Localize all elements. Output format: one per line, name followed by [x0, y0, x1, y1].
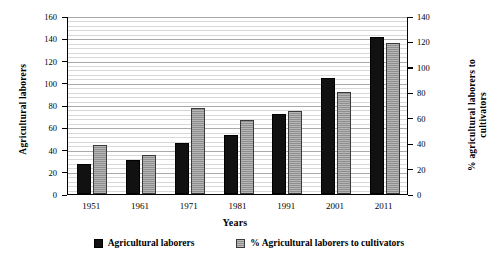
y-axis-right-tick-label: 0	[417, 190, 445, 200]
x-axis-tick-label: 2011	[359, 201, 409, 211]
bar-2001-series0	[321, 78, 335, 194]
y-axis-left-tick-label: 140	[29, 34, 57, 44]
gridline	[68, 97, 407, 98]
gridline	[68, 48, 407, 49]
gridline	[68, 115, 407, 116]
x-axis-tick-label: 1981	[213, 201, 263, 211]
gridline	[68, 110, 407, 111]
gridline	[68, 177, 407, 178]
bar-1991-series0	[272, 114, 286, 194]
gridline	[68, 119, 407, 120]
plot-area	[67, 17, 408, 195]
bar-2011-series1	[386, 43, 400, 194]
y-axis-left-tick	[62, 172, 67, 173]
gridline	[68, 133, 407, 134]
y-axis-right-tick-label: 20	[417, 165, 445, 175]
bar-1951-series1	[93, 145, 107, 194]
legend-item-label: % Agricultural laborers to cultivators	[250, 238, 404, 248]
gridline	[68, 155, 407, 156]
gridline	[68, 93, 407, 94]
y-axis-left-tick-label: 20	[29, 168, 57, 178]
gridline	[68, 151, 407, 152]
y-axis-left-tick	[62, 39, 67, 40]
gridline	[68, 84, 407, 85]
gridline	[68, 17, 407, 18]
gridline	[68, 142, 407, 143]
y-axis-left-tick	[62, 150, 67, 151]
gridline	[68, 79, 407, 80]
y-axis-left-tick-label: 160	[29, 12, 57, 22]
bar-1991-series1	[288, 111, 302, 194]
gridline	[68, 146, 407, 147]
legend-item-label: Agricultural laborers	[108, 238, 195, 248]
bar-chart: Agricultural laborers % agricultural lab…	[0, 0, 498, 270]
gridline	[68, 75, 407, 76]
bar-1981-series1	[240, 120, 254, 194]
y-axis-right-tick	[408, 144, 413, 145]
y-axis-right-tick	[408, 195, 413, 196]
y-axis-left-tick-label: 120	[29, 57, 57, 67]
y-axis-right-tick-label: 40	[417, 139, 445, 149]
y-axis-left-title: Agricultural laborers	[18, 34, 28, 184]
x-axis-tick-label: 2001	[310, 201, 360, 211]
gridline	[68, 21, 407, 22]
y-axis-left-tick	[62, 106, 67, 107]
gridline	[68, 124, 407, 125]
gridline	[68, 159, 407, 160]
y-axis-right-tick	[408, 42, 413, 43]
x-axis-tick-label: 1971	[164, 201, 214, 211]
y-axis-right-tick-label: 140	[417, 12, 445, 22]
y-axis-right-tick	[408, 93, 413, 94]
gridline	[68, 168, 407, 169]
gray-square-icon	[236, 239, 245, 248]
gridline	[68, 191, 407, 192]
bar-1981-series0	[224, 135, 238, 194]
x-axis-tick-label: 1951	[66, 201, 116, 211]
gridline	[68, 137, 407, 138]
y-axis-right-tick-label: 120	[417, 37, 445, 47]
gridline	[68, 66, 407, 67]
y-axis-left-tick	[62, 61, 67, 62]
x-axis-tick-label: 1961	[115, 201, 165, 211]
gridlines	[68, 17, 407, 194]
gridline	[68, 44, 407, 45]
y-axis-left-tick	[62, 195, 67, 196]
y-axis-right-tick-label: 80	[417, 88, 445, 98]
chart-legend: Agricultural laborers% Agricultural labo…	[0, 238, 498, 248]
gridline	[68, 39, 407, 40]
black-square-icon	[94, 239, 103, 248]
gridline	[68, 53, 407, 54]
x-axis-title: Years	[60, 217, 410, 228]
gridline	[68, 70, 407, 71]
bar-1961-series0	[126, 160, 140, 194]
legend-item[interactable]: % Agricultural laborers to cultivators	[236, 238, 404, 248]
gridline	[68, 30, 407, 31]
y-axis-right-tick-label: 100	[417, 63, 445, 73]
y-axis-right-tick	[408, 118, 413, 119]
gridline	[68, 102, 407, 103]
y-axis-left-tick-label: 40	[29, 146, 57, 156]
gridline	[68, 164, 407, 165]
bar-2001-series1	[337, 92, 351, 194]
y-axis-left-tick-label: 60	[29, 123, 57, 133]
gridline	[68, 62, 407, 63]
gridline	[68, 35, 407, 36]
y-axis-left-tick	[62, 17, 67, 18]
y-axis-left-tick-label: 0	[29, 190, 57, 200]
y-axis-right-tick-label: 60	[417, 114, 445, 124]
gridline	[68, 182, 407, 183]
y-axis-right-tick	[408, 67, 413, 68]
bar-1971-series1	[191, 108, 205, 194]
y-axis-left-tick	[62, 83, 67, 84]
gridline	[68, 186, 407, 187]
y-axis-right-tick	[408, 169, 413, 170]
bar-1971-series0	[175, 143, 189, 194]
legend-item[interactable]: Agricultural laborers	[94, 238, 195, 248]
bar-1961-series1	[142, 155, 156, 194]
gridline	[68, 88, 407, 89]
gridline	[68, 106, 407, 107]
bar-1951-series0	[77, 164, 91, 194]
bar-2011-series0	[370, 37, 384, 194]
y-axis-right-tick	[408, 17, 413, 18]
y-axis-left-tick-label: 100	[29, 79, 57, 89]
